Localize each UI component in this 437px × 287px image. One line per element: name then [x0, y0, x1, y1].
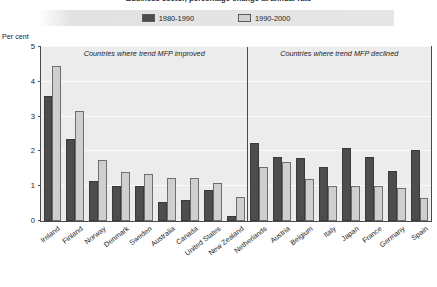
x-axis-tick-label: Ireland — [39, 224, 62, 245]
bar — [397, 188, 406, 221]
bar — [121, 172, 130, 221]
legend-swatch-icon — [238, 14, 251, 22]
x-axis-tick-label: Australia — [149, 224, 177, 248]
bar — [411, 150, 420, 221]
legend-label: 1990-2000 — [255, 14, 290, 23]
y-axis-title: Per cent — [2, 32, 29, 41]
bar — [365, 157, 374, 221]
bar — [273, 157, 282, 221]
bar — [52, 66, 61, 221]
bar — [75, 111, 84, 221]
bar — [44, 96, 53, 221]
legend-label: 1980-1990 — [159, 14, 194, 23]
y-axis-tick-label: 1 — [31, 181, 35, 190]
bar — [89, 181, 98, 221]
bar — [135, 186, 144, 221]
legend-item-1980-1990: 1980-1990 — [142, 14, 194, 23]
gridline — [41, 150, 431, 151]
chart-legend: 1980-1990 1990-2000 — [38, 10, 394, 26]
bar — [227, 216, 236, 221]
bar — [420, 198, 429, 221]
bar — [204, 190, 213, 221]
chart-title: Business sector, percentage change at an… — [0, 0, 437, 4]
x-axis-tick-label: Finland — [61, 224, 85, 246]
y-axis-tick-label: 3 — [31, 111, 35, 120]
bar — [388, 171, 397, 221]
bar — [144, 174, 153, 221]
bar — [112, 186, 121, 221]
legend-swatch-icon — [142, 14, 155, 22]
panel-divider — [247, 47, 248, 221]
bar — [374, 186, 383, 221]
x-axis-labels: IrelandFinlandNorwayDenmarkSwedenAustral… — [40, 224, 432, 286]
plot-area: Countries where trend MFP improvedCountr… — [40, 46, 432, 222]
chart-figure: Business sector, percentage change at an… — [0, 0, 437, 287]
y-axis-tick-label: 2 — [31, 146, 35, 155]
gridline — [41, 116, 431, 117]
bar — [296, 158, 305, 221]
y-axis-tick-label: 0 — [31, 216, 35, 225]
x-axis-tick-label: Denmark — [102, 224, 131, 249]
bar — [259, 167, 268, 221]
y-axis-tick-label: 4 — [31, 76, 35, 85]
bar — [190, 178, 199, 222]
bar — [328, 186, 337, 221]
bar — [98, 160, 107, 221]
panel-label: Countries where trend MFP declined — [247, 49, 431, 58]
bar — [236, 197, 245, 221]
bar — [305, 179, 314, 221]
panel-label: Countries where trend MFP improved — [41, 49, 247, 58]
bar — [282, 162, 291, 221]
gridline — [41, 46, 431, 47]
bar — [158, 202, 167, 221]
x-axis-tick-label: Japan — [339, 224, 360, 243]
legend-item-1990-2000: 1990-2000 — [238, 14, 290, 23]
y-axis-tick-label: 5 — [31, 42, 35, 51]
x-axis-tick-label: Belgium — [288, 224, 314, 247]
y-axis-ticks: 012345 — [0, 46, 40, 222]
x-axis-tick-label: Spain — [409, 224, 429, 242]
bar — [351, 186, 360, 221]
bar — [250, 143, 259, 221]
gridline — [41, 81, 431, 82]
bar — [213, 183, 222, 221]
bar — [66, 139, 75, 221]
bar — [181, 200, 190, 221]
x-axis-tick-label: Italy — [321, 224, 337, 239]
bar — [319, 167, 328, 221]
x-axis-tick-label: Austria — [268, 224, 291, 245]
bar — [342, 148, 351, 221]
bar — [167, 178, 176, 222]
